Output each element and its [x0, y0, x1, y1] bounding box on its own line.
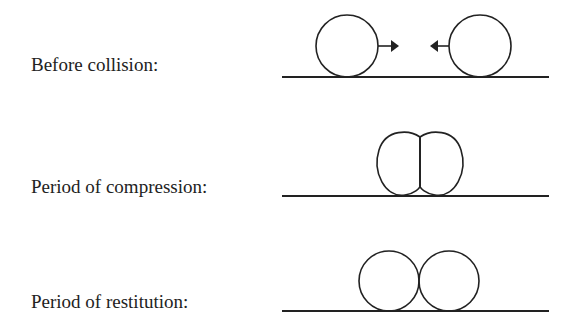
sphere-left [316, 15, 378, 77]
sphere-left-deformed [377, 132, 420, 195]
restitution-figure [282, 251, 549, 311]
sphere-left [359, 251, 419, 311]
collision-diagram [0, 0, 573, 329]
sphere-right [449, 15, 511, 77]
arrow-left-icon [430, 40, 449, 52]
sphere-right-deformed [420, 132, 463, 195]
before-collision-figure [282, 15, 549, 77]
arrow-right-icon [378, 40, 399, 52]
compression-figure [282, 132, 549, 196]
sphere-right [419, 251, 479, 311]
